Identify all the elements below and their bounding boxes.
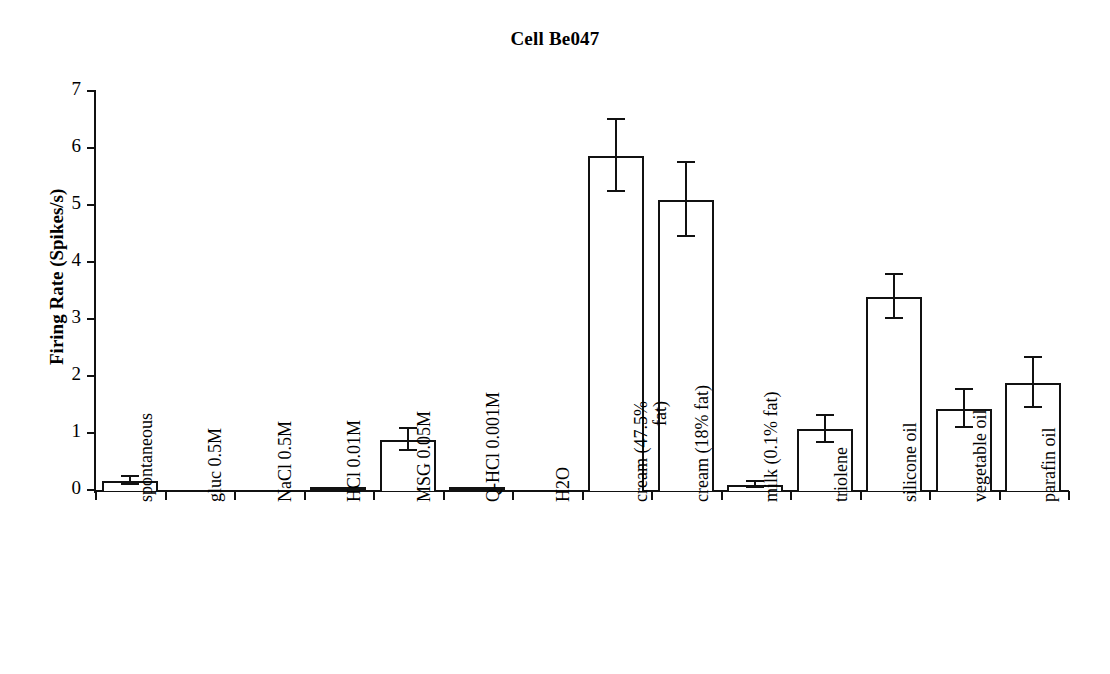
x-axis-tick-label-line: H2O (553, 467, 573, 502)
x-axis-tick-label-line: silicone oil (900, 423, 920, 503)
x-axis-tick-label: Q-HCl 0.001M (484, 392, 503, 502)
x-axis-tick-label: cream (47.5%fat) (632, 401, 670, 502)
x-axis-tick (443, 491, 445, 500)
y-axis-label: Firing Rate (Spikes/s) (46, 189, 68, 365)
y-axis-tick: 1 (87, 432, 95, 434)
y-axis-tick: 0 (87, 489, 95, 491)
error-bar-cap-bottom (816, 441, 834, 443)
x-axis-tick (860, 491, 862, 500)
y-axis-tick-label: 5 (72, 193, 82, 213)
x-axis-tick-label-line: vegetable oil (970, 410, 990, 502)
error-bar (407, 429, 409, 451)
x-axis-tick (304, 491, 306, 500)
error-bar-cap-top (677, 161, 695, 163)
x-axis-tick-label-line: parafin oil (1039, 428, 1059, 502)
x-axis-tick (929, 491, 931, 500)
y-axis-tick: 7 (87, 90, 95, 92)
error-bar-cap-bottom (607, 190, 625, 192)
y-axis-tick-label: 4 (72, 250, 82, 270)
x-axis-tick-label: cream (18% fat) (693, 385, 712, 502)
x-axis-tick-label-line: gluc 0.5M (205, 428, 225, 502)
x-axis-tick-label: NaCl 0.5M (276, 421, 295, 502)
y-axis-tick-label: 6 (72, 136, 82, 156)
x-axis-tick-label-line: cream (47.5% (631, 401, 651, 502)
x-axis-tick (512, 491, 514, 500)
x-axis-tick (373, 491, 375, 500)
x-axis-tick-label: milk (0.1% fat) (762, 392, 781, 502)
plot-area: 01234567 (95, 92, 1068, 491)
error-bar (615, 120, 617, 192)
x-axis-tick-label: parafin oil (1040, 428, 1059, 502)
error-bar-cap-top (955, 388, 973, 390)
error-bar-cap-top (607, 118, 625, 120)
x-axis-tick-label-line: Q-HCl 0.001M (483, 392, 503, 502)
error-bar (893, 275, 895, 319)
bar-group (519, 92, 575, 491)
x-axis-tick-label-line: MSG 0.05M (414, 411, 434, 502)
y-axis-tick: 2 (87, 375, 95, 377)
x-axis-tick (790, 491, 792, 500)
x-axis-tick-label: gluc 0.5M (206, 428, 225, 502)
x-axis-tick (234, 491, 236, 500)
x-axis-tick (1068, 491, 1070, 500)
x-axis-tick-label-line: NaCl 0.5M (275, 421, 295, 502)
y-axis-tick-label: 3 (72, 307, 82, 327)
x-axis-tick-label: HCl 0.01M (345, 420, 364, 502)
x-axis-tick-label: H2O (554, 467, 573, 502)
chart-page: Cell Be047 Firing Rate (Spikes/s) 012345… (0, 0, 1110, 674)
error-bar-cap-top (885, 273, 903, 275)
error-bar (824, 416, 826, 442)
y-axis-tick: 5 (87, 204, 95, 206)
bar-group (797, 92, 853, 491)
x-axis-tick-label-line: fat) (651, 401, 670, 502)
y-axis-tick: 6 (87, 147, 95, 149)
x-axis-tick-label: MSG 0.05M (415, 411, 434, 502)
y-axis-tick-label: 2 (72, 364, 82, 384)
error-bar (685, 163, 687, 237)
x-axis-tick (95, 491, 97, 500)
error-bar (1032, 358, 1034, 408)
x-axis-tick (582, 491, 584, 500)
x-axis-tick-label: spontaneous (137, 413, 156, 502)
x-axis-tick (165, 491, 167, 500)
error-bar (963, 390, 965, 428)
y-axis-tick: 4 (87, 261, 95, 263)
y-axis-tick: 3 (87, 318, 95, 320)
x-axis-tick (999, 491, 1001, 500)
x-axis-tick-label: silicone oil (901, 423, 920, 503)
error-bar-cap-top (1024, 356, 1042, 358)
x-axis-tick-label: triolene (832, 447, 851, 502)
y-axis-tick-label: 7 (72, 79, 82, 99)
y-axis-tick-label: 1 (72, 421, 82, 441)
error-bar-cap-bottom (1024, 406, 1042, 408)
x-axis-tick-label-line: triolene (831, 447, 851, 502)
error-bar-cap-top (816, 414, 834, 416)
x-axis-tick-label-line: cream (18% fat) (692, 385, 712, 502)
chart-title: Cell Be047 (0, 28, 1110, 50)
x-axis-tick-label-line: spontaneous (136, 413, 156, 502)
x-axis-tick (721, 491, 723, 500)
error-bar-cap-bottom (885, 317, 903, 319)
x-axis-tick-label-line: milk (0.1% fat) (761, 392, 781, 502)
x-axis-tick-label: vegetable oil (971, 410, 990, 502)
error-bar-cap-bottom (677, 235, 695, 237)
y-axis-tick-label: 0 (72, 478, 82, 498)
x-axis-tick-label-line: HCl 0.01M (344, 420, 364, 502)
